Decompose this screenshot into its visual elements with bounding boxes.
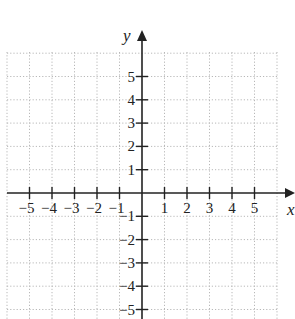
- y-tick-label: 3: [128, 115, 136, 131]
- y-tick-label: 1: [128, 162, 136, 178]
- coordinate-plane: −5−4−3−2−11234554321−1−2−3−4−5 y x: [0, 0, 295, 319]
- y-tick-label: −1: [119, 208, 135, 224]
- y-tick-label: −2: [119, 232, 135, 248]
- y-tick-label: 4: [128, 92, 136, 108]
- x-tick-label: −4: [41, 200, 57, 216]
- x-tick-label: −5: [19, 200, 35, 216]
- x-axis-arrow-icon: [285, 188, 295, 198]
- x-axis-label: x: [286, 200, 295, 219]
- y-tick-label: −5: [119, 302, 135, 318]
- x-tick-label: −2: [86, 200, 102, 216]
- y-tick-label: 2: [128, 138, 136, 154]
- y-axis-arrow-icon: [137, 30, 147, 41]
- x-tick-label: 5: [251, 200, 259, 216]
- x-tick-label: 3: [206, 200, 214, 216]
- axes: [7, 30, 295, 319]
- y-axis-label: y: [121, 26, 131, 45]
- x-tick-label: −3: [64, 200, 80, 216]
- x-tick-label: 4: [228, 200, 236, 216]
- x-tick-label: 1: [161, 200, 169, 216]
- y-tick-label: 5: [128, 69, 136, 85]
- y-tick-label: −3: [119, 255, 135, 271]
- y-tick-label: −4: [119, 278, 135, 294]
- x-tick-label: 2: [183, 200, 191, 216]
